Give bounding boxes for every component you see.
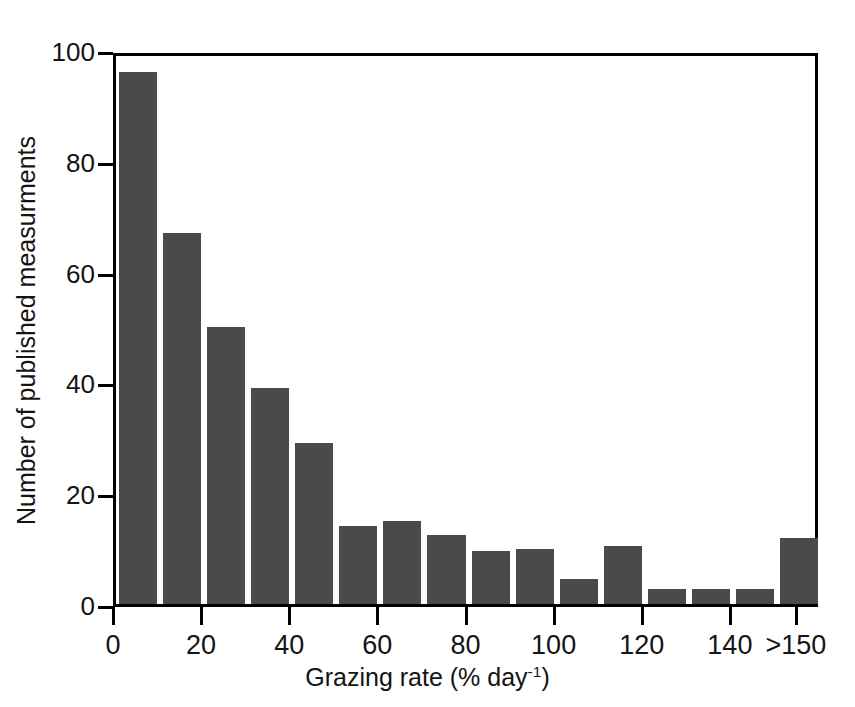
bars-layer bbox=[116, 56, 815, 604]
chart-figure: Number of published measurments 02040608… bbox=[0, 0, 855, 707]
bar bbox=[251, 388, 289, 604]
x-axis-tick bbox=[112, 607, 115, 625]
x-axis-tick-label: 120 bbox=[619, 630, 664, 660]
x-axis-tick-label: 60 bbox=[362, 630, 392, 660]
x-axis-tick-label: 0 bbox=[105, 630, 120, 660]
x-axis-tick bbox=[729, 607, 732, 625]
y-axis-tick-label: 100 bbox=[17, 39, 95, 65]
x-axis-title-text: Grazing rate (% day bbox=[305, 663, 527, 691]
x-axis-tick-label: 80 bbox=[450, 630, 480, 660]
bar bbox=[163, 233, 201, 604]
y-axis-tick-label: 80 bbox=[17, 150, 95, 176]
bar bbox=[472, 551, 510, 604]
y-axis-tick-label: 40 bbox=[17, 371, 95, 397]
y-axis-title-container: Number of published measurments bbox=[0, 0, 54, 660]
y-axis-title: Number of published measurments bbox=[13, 135, 42, 524]
x-axis-tick bbox=[465, 607, 468, 625]
y-axis-tick bbox=[98, 274, 113, 277]
x-axis-tick bbox=[553, 607, 556, 625]
bar bbox=[383, 521, 421, 604]
y-axis-tick bbox=[98, 384, 113, 387]
y-axis-tick bbox=[98, 52, 113, 55]
bar bbox=[516, 549, 554, 604]
y-axis-tick-label: 0 bbox=[17, 593, 95, 619]
bar bbox=[648, 589, 686, 605]
y-axis-tick bbox=[98, 495, 113, 498]
x-axis-tick-label: 100 bbox=[531, 630, 576, 660]
bar bbox=[339, 526, 377, 604]
x-axis-tick bbox=[641, 607, 644, 625]
bar bbox=[119, 72, 157, 604]
y-axis-tick bbox=[98, 606, 113, 609]
bar bbox=[427, 535, 465, 604]
bar bbox=[780, 538, 818, 604]
bar bbox=[692, 589, 730, 605]
x-axis-tick-label: 140 bbox=[707, 630, 752, 660]
x-axis-tick-label: >150 bbox=[766, 630, 827, 660]
y-axis-tick-label: 20 bbox=[17, 482, 95, 508]
y-axis-tick-label: 60 bbox=[17, 261, 95, 287]
bar bbox=[604, 546, 642, 604]
x-axis-title-tail: ) bbox=[541, 663, 549, 691]
bar bbox=[207, 327, 245, 604]
x-axis-tick bbox=[376, 607, 379, 625]
x-axis-title: Grazing rate (% day-1) bbox=[0, 663, 855, 692]
bar bbox=[736, 589, 774, 605]
x-axis-tick bbox=[288, 607, 291, 625]
x-axis-tick-label: 20 bbox=[186, 630, 216, 660]
plot-area bbox=[113, 53, 818, 607]
x-axis-title-exponent: -1 bbox=[528, 663, 542, 680]
y-axis-tick bbox=[98, 163, 113, 166]
x-axis-tick-label: 40 bbox=[274, 630, 304, 660]
x-axis-tick bbox=[200, 607, 203, 625]
x-axis-tick bbox=[795, 607, 798, 625]
bar bbox=[560, 579, 598, 604]
bar bbox=[295, 443, 333, 604]
